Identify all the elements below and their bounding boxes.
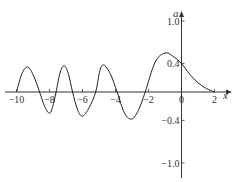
- x-tick-label: −6: [77, 94, 88, 105]
- data-line: [17, 53, 215, 119]
- x-tick-label: −10: [9, 94, 25, 105]
- y-tick-label: −0.4: [161, 115, 179, 126]
- x-tick-label: 2: [212, 94, 217, 105]
- x-tick-label: 0: [179, 94, 184, 105]
- y-axis-label: a: [173, 7, 179, 19]
- x-tick-label: −2: [143, 94, 154, 105]
- x-axis-label: x: [222, 89, 228, 101]
- chart: −10−8−6−4−2021.00.4−0.4−1.0 x a: [0, 0, 236, 182]
- y-tick-label: −1.0: [161, 158, 179, 169]
- y-axis-arrow-icon: [179, 11, 184, 17]
